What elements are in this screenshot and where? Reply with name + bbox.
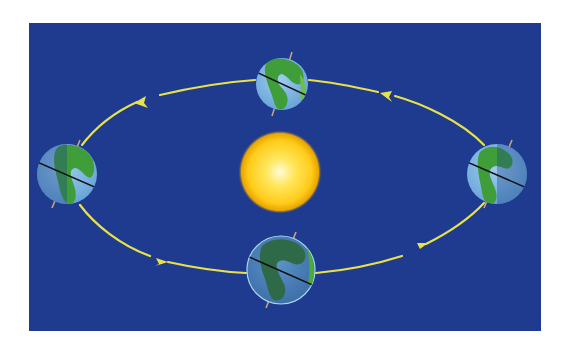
orbit-diagram (0, 0, 570, 356)
sun (238, 130, 322, 214)
